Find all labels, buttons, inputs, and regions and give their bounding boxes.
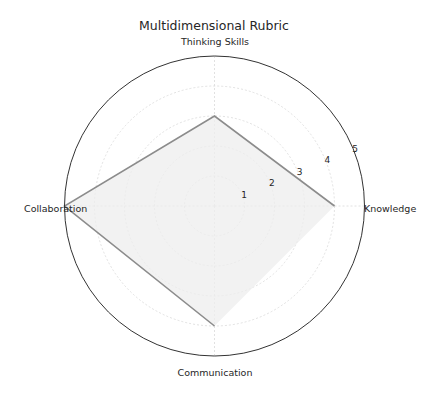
axis-label-thinking-skills: Thinking Skills	[180, 36, 249, 47]
series-fill	[65, 116, 335, 326]
axis-label-collaboration: Collaboration	[24, 203, 87, 214]
radial-tick-label: 4	[324, 155, 330, 165]
radial-tick-label: 2	[269, 178, 275, 188]
radar-chart: Multidimensional Rubric 12345 Knowledge …	[0, 0, 422, 397]
radial-tick-label: 3	[297, 167, 303, 177]
axis-label-communication: Communication	[178, 367, 253, 378]
radial-tick-label: 1	[241, 190, 247, 200]
axis-label-knowledge: Knowledge	[364, 203, 416, 214]
radar-series	[65, 116, 335, 326]
chart-title: Multidimensional Rubric	[139, 18, 289, 33]
radial-tick-label: 5	[352, 144, 358, 154]
